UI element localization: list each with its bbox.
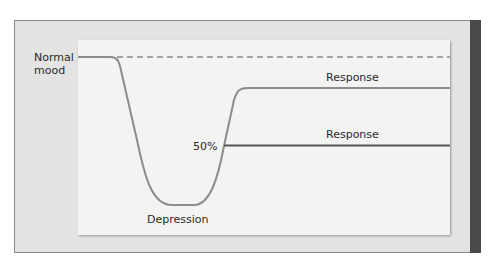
upper-response-label: Response <box>326 71 379 84</box>
fifty-percent-label: 50% <box>193 140 217 153</box>
mood-curve <box>78 57 450 205</box>
normal-mood-label-line2: mood <box>34 64 65 77</box>
figure: Normal mood Response Response 50% Depres… <box>0 0 490 261</box>
normal-mood-label-line1: Normal <box>34 51 74 64</box>
depression-label: Depression <box>147 213 209 226</box>
lower-response-label: Response <box>326 128 379 141</box>
mood-course-diagram: Normal mood Response Response 50% Depres… <box>0 0 490 261</box>
